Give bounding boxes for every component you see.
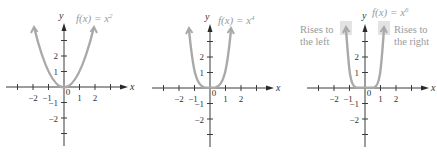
tick-label-x-neg2: −2 <box>174 94 184 104</box>
tick-label-x-1: 1 <box>378 94 383 104</box>
tick-label-y-neg2: −2 <box>194 115 204 125</box>
tick-label-x-2: 2 <box>239 94 244 104</box>
tick-label-x-2: 2 <box>93 93 98 103</box>
annotation-rises-right-line1: Rises to <box>394 24 428 35</box>
tick-label-y-2: 2 <box>200 52 205 62</box>
tick-label-x-1: 1 <box>77 93 82 103</box>
tick-label-x-neg2: −2 <box>28 93 38 103</box>
power-functions-figure: −2 −1 0 1 2 2 1 −1 −2 x y f(x) = x2 <box>0 0 437 159</box>
tick-label-y-neg1: −1 <box>349 99 359 109</box>
y-axis-label: y <box>204 11 210 22</box>
x-axis-arrow-icon <box>266 86 274 91</box>
function-title: f(x) = x6 <box>372 6 409 19</box>
tick-label-y-neg1: −1 <box>48 98 58 108</box>
x-axis-label: x <box>430 82 436 93</box>
graph-x-squared: −2 −1 0 1 2 2 1 −1 −2 x y f(x) = x2 <box>6 10 135 146</box>
annotation-rises-left-line1: Rises to <box>300 24 334 35</box>
graph-x-sixth: −2 −1 0 1 2 2 1 −1 −2 x y f(x) = x6 Rise… <box>300 6 436 147</box>
graph-x-fourth: −2 −1 0 1 2 2 1 −1 −2 x y f(x) = x4 <box>152 11 281 147</box>
tick-label-y-2: 2 <box>355 52 360 62</box>
y-axis-label: y <box>361 10 367 21</box>
y-axis-arrow-icon <box>208 24 213 32</box>
tick-label-y-1: 1 <box>355 68 360 78</box>
y-axis-arrow-icon <box>363 24 368 32</box>
x-axis-arrow-icon <box>120 85 128 90</box>
tick-label-y-2: 2 <box>54 51 59 61</box>
tick-label-x-2: 2 <box>394 94 399 104</box>
annotation-rises-right-line2: the right <box>394 36 429 47</box>
x-axis-label: x <box>275 82 281 93</box>
x-axis-arrow-icon <box>421 86 429 91</box>
x-axis-label: x <box>129 81 135 92</box>
tick-label-x-1: 1 <box>223 94 228 104</box>
function-title: f(x) = x2 <box>76 12 113 25</box>
y-axis-arrow-icon <box>62 23 67 31</box>
tick-label-x-0: 0 <box>367 88 372 98</box>
tick-label-y-neg2: −2 <box>48 114 58 124</box>
tick-label-y-neg2: −2 <box>349 115 359 125</box>
annotation-rises-left-line2: the left <box>300 36 330 47</box>
tick-label-x-0: 0 <box>66 87 71 97</box>
tick-label-y-1: 1 <box>54 67 59 77</box>
function-title: f(x) = x4 <box>218 14 255 27</box>
y-axis-label: y <box>58 10 64 21</box>
tick-label-x-neg2: −2 <box>329 94 339 104</box>
tick-label-y-1: 1 <box>200 68 205 78</box>
tick-label-x-0: 0 <box>212 88 217 98</box>
tick-label-y-neg1: −1 <box>194 99 204 109</box>
